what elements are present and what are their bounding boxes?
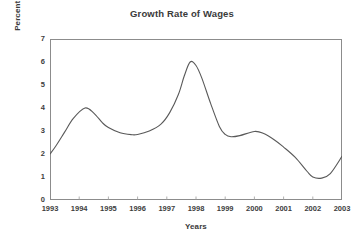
y-tick-label: 4 (23, 104, 45, 112)
plot-border (51, 40, 342, 200)
y-tick-label: 1 (23, 173, 45, 181)
y-axis-title: Percent of growth (13, 0, 25, 64)
y-tick-label: 0 (23, 196, 45, 204)
plot-svg (50, 39, 342, 200)
y-tick-label: 7 (23, 35, 45, 43)
y-tick-label: 6 (23, 58, 45, 66)
y-tick-label: 5 (23, 81, 45, 89)
wage-growth-chart: Growth Rate of Wages Percent of growth Y… (0, 0, 364, 244)
plot-area (50, 39, 342, 200)
y-tick-label: 3 (23, 127, 45, 135)
x-axis-title: Years (50, 222, 342, 231)
x-tick-label: 2003 (322, 205, 362, 213)
y-tick-label: 2 (23, 150, 45, 158)
chart-title: Growth Rate of Wages (0, 8, 364, 19)
